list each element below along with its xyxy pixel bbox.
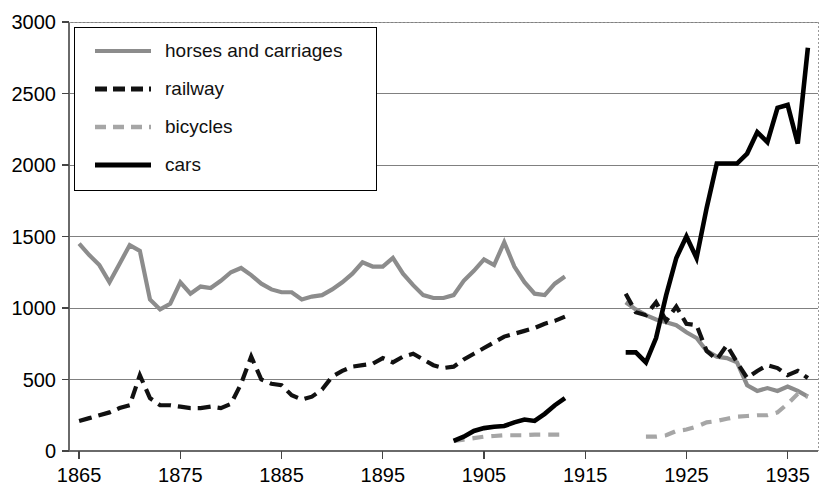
legend-item[interactable]: bicycles [93,114,233,140]
y-axis-tick-label: 2500 [12,82,57,105]
legend-item-label: horses and carriages [165,40,342,62]
x-axis-tick-label: 1865 [57,464,102,487]
series-line-railway [626,294,808,378]
x-axis-tick-label: 1925 [664,464,709,487]
series-line-railway [79,317,565,421]
legend-item-label: railway [165,78,224,100]
y-axis-tick-label: 2000 [12,154,57,177]
legend-swatch-cars-icon [93,152,153,178]
y-axis-tick-label: 500 [23,368,56,391]
y-axis-tick-label: 1500 [12,225,57,248]
x-axis-tick-label: 1875 [158,464,203,487]
legend-swatch-horses-icon [93,38,153,64]
legend-item[interactable]: horses and carriages [93,38,342,64]
legend-item-label: cars [165,154,201,176]
legend-item[interactable]: cars [93,152,201,178]
series-line-cars [626,48,808,363]
chart-legend: horses and carriagesrailwaybicyclescars [74,27,377,191]
series-line-bicycles [646,394,808,437]
legend-swatch-railway-icon [93,76,153,102]
y-axis-tick-label: 3000 [12,11,57,34]
x-axis-tick-label: 1915 [563,464,608,487]
x-axis-tick-label: 1905 [462,464,507,487]
legend-item[interactable]: railway [93,76,224,102]
x-axis-tick-label: 1885 [259,464,304,487]
chart-container: 300025002000150010005000 186518751885189… [0,0,829,504]
series-line-horses-and-carriages [79,242,565,309]
y-axis-tick-label: 1000 [12,297,57,320]
legend-swatch-bicycles-icon [93,114,153,140]
legend-item-label: bicycles [165,116,233,138]
x-axis-tick-label: 1895 [361,464,406,487]
y-axis-tick-label: 0 [45,440,56,463]
x-axis-tick-label: 1935 [765,464,810,487]
